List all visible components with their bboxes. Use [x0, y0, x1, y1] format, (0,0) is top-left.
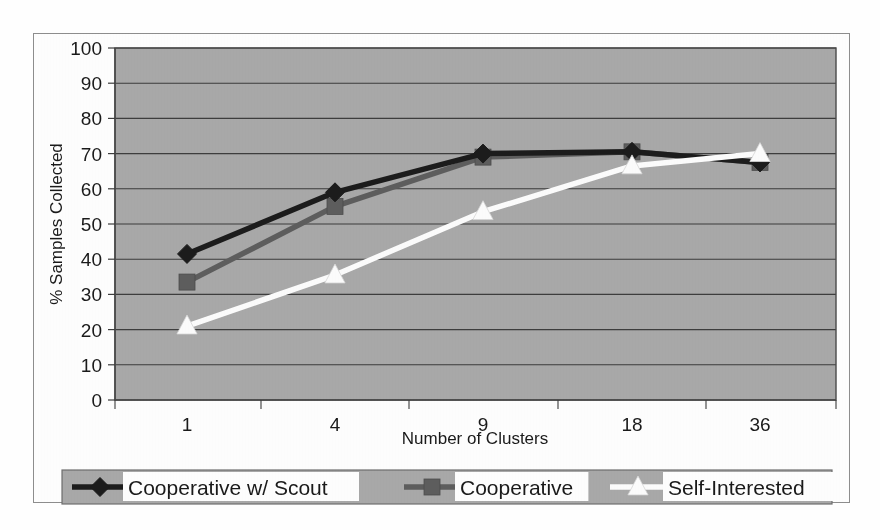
y-axis-tick-label: 20 — [81, 320, 102, 341]
y-axis-tick-label: 60 — [81, 179, 102, 200]
x-axis-tick-label: 36 — [749, 414, 770, 435]
square-data-marker — [424, 479, 440, 495]
y-axis-title: % Samples Collected — [47, 143, 66, 305]
y-axis-tick-label: 70 — [81, 144, 102, 165]
y-axis-tick-label: 80 — [81, 108, 102, 129]
chart-figure: 0102030405060708090100 1491836 Number of… — [0, 0, 880, 530]
y-axis-tick-label: 50 — [81, 214, 102, 235]
y-axis: 0102030405060708090100 — [70, 38, 115, 411]
y-axis-tick-label: 10 — [81, 355, 102, 376]
legend-label: Cooperative — [460, 476, 573, 499]
chart-legend: Cooperative w/ ScoutCooperativeSelf-Inte… — [62, 470, 842, 504]
y-axis-tick-label: 100 — [70, 38, 102, 59]
y-axis-tick-label: 0 — [91, 390, 102, 411]
square-data-marker — [179, 274, 195, 290]
y-axis-tick-label: 90 — [81, 73, 102, 94]
x-axis-tick-label: 18 — [621, 414, 642, 435]
x-axis-tick-label: 1 — [182, 414, 193, 435]
x-axis-title: Number of Clusters — [402, 429, 548, 448]
y-axis-tick-label: 30 — [81, 284, 102, 305]
line-chart: 0102030405060708090100 1491836 Number of… — [0, 0, 880, 530]
legend-label: Cooperative w/ Scout — [128, 476, 328, 499]
x-axis-tick-label: 4 — [330, 414, 341, 435]
legend-label: Self-Interested — [668, 476, 805, 499]
y-axis-tick-label: 40 — [81, 249, 102, 270]
